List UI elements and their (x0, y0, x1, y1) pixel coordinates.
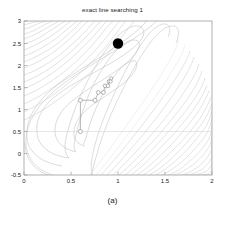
x-tick-label-4: 2 (210, 178, 214, 184)
optimum-marker (113, 38, 123, 48)
x-tick-label-1: 0.5 (67, 178, 76, 184)
iterate-marker-8 (109, 80, 112, 83)
iterate-marker-6 (106, 84, 110, 88)
x-tick-label-0: 0 (22, 178, 26, 184)
iterate-marker-0 (78, 130, 82, 134)
x-tick-label-3: 1.5 (161, 178, 170, 184)
x-tick-label-2: 1 (116, 178, 120, 184)
y-tick-label-2p5: 2.5 (13, 41, 22, 47)
y-tick-label-1: 1 (18, 107, 22, 113)
y-tick-labels: 3 2.5 2 1.5 1 0.5 0 -0.5 (11, 18, 22, 178)
figure-container: exact line searching 1 (0, 0, 225, 227)
y-tick-label-0p5: 0.5 (13, 129, 22, 135)
iterate-marker-1 (78, 98, 82, 102)
y-tick-label-m0p5: -0.5 (11, 172, 22, 178)
x-tick-labels: 0 0.5 1 1.5 2 (22, 178, 214, 184)
contour-plot: 0 0.5 1 1.5 2 3 2.5 2 1.5 1 0.5 0 -0.5 (0, 0, 225, 227)
figure-caption: (a) (0, 196, 225, 205)
y-tick-label-2: 2 (18, 63, 22, 69)
iterate-marker-4 (102, 91, 106, 95)
iterate-marker-9 (110, 77, 113, 80)
y-tick-label-3: 3 (18, 18, 22, 24)
y-tick-label-0: 0 (18, 151, 22, 157)
y-tick-label-1p5: 1.5 (13, 85, 22, 91)
iterate-marker-3 (96, 91, 100, 95)
iterate-marker-2 (93, 98, 97, 102)
